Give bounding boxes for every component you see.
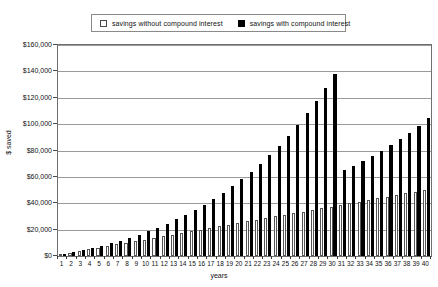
bar-with-compound <box>306 113 309 256</box>
x-axis-tick-label: 20 <box>235 260 242 267</box>
x-axis-tick-label: 4 <box>88 260 92 267</box>
legend-item-with-compound: savings with compound interest <box>238 20 351 27</box>
x-axis-tick-label: 8 <box>125 260 129 267</box>
x-axis-tick-mark <box>66 256 67 259</box>
bar-without-compound <box>246 221 249 256</box>
x-axis-tick-label: 35 <box>375 260 382 267</box>
x-axis-tick-mark <box>94 256 95 259</box>
bar-without-compound <box>124 243 127 256</box>
bar-without-compound <box>386 197 389 256</box>
bar-with-compound <box>371 156 374 256</box>
bar-with-compound <box>343 170 346 256</box>
bar-with-compound <box>175 219 178 256</box>
bar-without-compound <box>376 198 379 256</box>
bar-without-compound <box>292 213 295 256</box>
x-axis-tick-label: 13 <box>170 260 177 267</box>
x-axis-tick-mark <box>160 256 161 259</box>
x-axis-tick-mark <box>262 256 263 259</box>
x-axis-tick-label: 27 <box>300 260 307 267</box>
x-axis-tick-mark <box>290 256 291 259</box>
x-axis-tick-mark <box>141 256 142 259</box>
x-axis-tick-mark <box>253 256 254 259</box>
filled-square-icon <box>238 20 245 27</box>
x-axis-tick-label: 3 <box>79 260 83 267</box>
x-axis-tick-label: 36 <box>384 260 391 267</box>
y-axis-tick-label: $60,000 <box>27 172 52 179</box>
x-axis-tick-label: 34 <box>366 260 373 267</box>
x-axis-tick-label: 6 <box>106 260 110 267</box>
bar-with-compound <box>296 125 299 256</box>
x-axis-tick-mark <box>374 256 375 259</box>
chart-legend: savings without compound interest saving… <box>91 14 346 32</box>
bar-without-compound <box>152 238 155 256</box>
x-axis-tick-mark <box>365 256 366 259</box>
x-axis-tick-mark <box>318 256 319 259</box>
x-axis-tick-mark <box>197 256 198 259</box>
y-axis-tick-label: $20,000 <box>27 225 52 232</box>
x-axis-tick-label: 38 <box>403 260 410 267</box>
bar-without-compound <box>264 218 267 256</box>
savings-bar-chart: savings without compound interest saving… <box>0 0 438 287</box>
x-axis-tick-label: 14 <box>179 260 186 267</box>
x-axis-tick-label: 7 <box>116 260 120 267</box>
bar-without-compound <box>227 225 230 256</box>
bar-with-compound <box>222 193 225 256</box>
x-axis-tick-mark <box>132 256 133 259</box>
bar-without-compound <box>404 193 407 256</box>
bar-with-compound <box>315 101 318 256</box>
bar-without-compound <box>143 240 146 256</box>
bar-without-compound <box>274 216 277 256</box>
bar-with-compound <box>128 238 131 256</box>
x-axis-tick-label: 22 <box>254 260 261 267</box>
bar-with-compound <box>361 161 364 256</box>
bars-layer <box>58 45 431 256</box>
x-axis-tick-mark <box>309 256 310 259</box>
x-axis-tick-label: 40 <box>422 260 429 267</box>
x-axis-tick-label: 11 <box>152 260 159 267</box>
y-axis-title: $ saved <box>5 118 12 168</box>
x-axis-tick-mark <box>178 256 179 259</box>
bar-with-compound <box>427 118 430 256</box>
bar-without-compound <box>115 244 118 256</box>
bar-without-compound <box>255 220 258 256</box>
bar-with-compound <box>380 151 383 256</box>
bar-with-compound <box>203 205 206 256</box>
bar-without-compound <box>162 236 165 256</box>
bar-without-compound <box>190 231 193 256</box>
x-axis-tick-mark <box>430 256 431 259</box>
bar-with-compound <box>287 136 290 256</box>
bar-without-compound <box>339 205 342 256</box>
bar-with-compound <box>268 155 271 256</box>
x-axis-tick-label: 39 <box>412 260 419 267</box>
x-axis-tick-label: 25 <box>282 260 289 267</box>
bar-without-compound <box>208 228 211 256</box>
bar-with-compound <box>166 224 169 256</box>
bar-with-compound <box>156 228 159 256</box>
x-axis-tick-label: 37 <box>394 260 401 267</box>
x-axis-tick-mark <box>225 256 226 259</box>
bar-without-compound <box>330 207 333 256</box>
bar-with-compound <box>352 166 355 256</box>
x-axis-tick-label: 9 <box>134 260 138 267</box>
bar-with-compound <box>417 126 420 256</box>
bar-with-compound <box>147 231 150 256</box>
bar-with-compound <box>333 74 336 256</box>
x-axis-tick-mark <box>169 256 170 259</box>
x-axis-tick-mark <box>327 256 328 259</box>
x-axis-tick-mark <box>355 256 356 259</box>
x-axis-tick-label: 28 <box>310 260 317 267</box>
bar-without-compound <box>348 203 351 256</box>
y-axis-tick-label: $140,000 <box>23 67 52 74</box>
bar-without-compound <box>134 241 137 256</box>
open-square-icon <box>100 20 107 27</box>
x-axis-tick-mark <box>402 256 403 259</box>
bar-without-compound <box>199 230 202 256</box>
bar-with-compound <box>138 235 141 256</box>
bar-without-compound <box>236 223 239 256</box>
x-axis-tick-label: 16 <box>198 260 205 267</box>
x-axis-tick-label: 24 <box>273 260 280 267</box>
bar-with-compound <box>119 241 122 256</box>
x-axis-tick-label: 26 <box>291 260 298 267</box>
bar-with-compound <box>184 215 187 256</box>
y-axis-tick-label: $0 <box>44 252 52 259</box>
